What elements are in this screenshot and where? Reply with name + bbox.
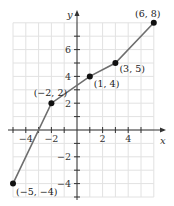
point-label: (3, 5)	[119, 63, 145, 74]
data-point	[87, 73, 93, 79]
x-axis-label: x	[160, 135, 166, 146]
x-tick-label: −2	[44, 133, 58, 144]
y-tick-label: 2	[65, 98, 71, 109]
y-tick-label: 6	[65, 44, 71, 55]
grid-lines	[13, 23, 154, 197]
y-tick-label: −4	[57, 178, 71, 189]
x-tick-label: 2	[100, 133, 106, 144]
data-point	[151, 20, 157, 26]
y-axis-label: y	[66, 9, 73, 20]
data-point	[112, 60, 118, 66]
point-label: (6, 8)	[135, 8, 161, 19]
x-tick-label: 4	[125, 133, 131, 144]
axes: x y	[8, 9, 166, 200]
y-tick-label: −2	[57, 151, 71, 162]
data-point	[48, 100, 54, 106]
x-axis-arrow-icon	[160, 128, 166, 133]
point-label: (−5, −4)	[16, 186, 57, 197]
line-chart: x y −4−224246−2−4 (−5, −4)(−2, 2)(1, 4)(…	[0, 0, 174, 206]
x-tick-label: −4	[19, 133, 33, 144]
point-label: (−2, 2)	[34, 87, 68, 98]
point-label: (1, 4)	[94, 78, 120, 89]
y-axis-arrow-icon	[75, 10, 80, 16]
y-tick-label: 4	[65, 71, 71, 82]
